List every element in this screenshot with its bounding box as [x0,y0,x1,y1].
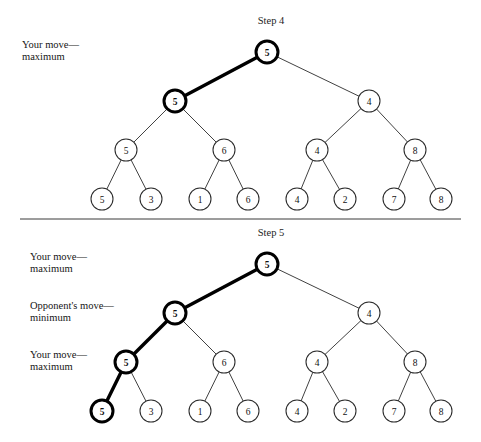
tree-node[interactable]: 5 [256,253,278,275]
tree-node[interactable]: 2 [334,188,356,210]
tree-node[interactable]: 5 [164,90,186,112]
tree-edge [133,108,167,142]
tree-edge-highlighted [133,320,167,354]
role-label-line: Opponent's move— [30,300,114,311]
tree-edge [229,159,244,189]
tree-edge [325,320,362,355]
tree-node-value: 5 [173,97,178,107]
tree-edge [398,372,411,402]
tree-node[interactable]: 4 [306,139,328,161]
tree-node-value: 5 [173,309,178,319]
tree-edge [322,371,340,402]
tree-edge [182,108,216,142]
tree-node-value: 4 [295,407,300,417]
tree-node[interactable]: 5 [164,302,186,324]
tree-node-value: 6 [222,358,227,368]
role-label-your-move-maximum-1: Your move—maximum [30,251,87,274]
tree-edge [182,320,216,354]
tree-node-value: 5 [265,260,270,270]
tree-edge [229,371,244,401]
role-label-your-move-maximum-2: Your move—maximum [30,349,87,372]
tree-node[interactable]: 2 [334,400,356,422]
tree-node-value: 5 [124,146,129,156]
tree-node[interactable]: 8 [430,188,452,210]
role-label-line: maximum [30,263,73,274]
tree-node[interactable]: 4 [286,400,308,422]
tree-node-value: 5 [265,48,270,58]
tree-edge [420,371,436,401]
tree-edge [325,108,362,143]
role-label-line: Your move— [22,39,79,50]
tree-node-value: 4 [295,195,300,205]
tree-node[interactable]: 6 [213,351,235,373]
tree-edge-highlighted [107,371,122,401]
tree-edge [276,57,359,97]
tree-node[interactable]: 8 [404,139,426,161]
tree-edge [205,159,220,189]
role-label-line: maximum [30,361,73,372]
role-label-line: Your move— [30,349,87,360]
tree-node[interactable]: 8 [404,351,426,373]
tree-node-value: 7 [392,195,397,205]
tree-node[interactable]: 1 [189,400,211,422]
tree-node[interactable]: 3 [140,400,162,422]
tree-node[interactable]: 4 [358,90,380,112]
tree-node[interactable]: 4 [306,351,328,373]
role-label-line: maximum [22,51,65,62]
tree-edge [376,321,408,355]
tree-node-value: 3 [149,407,154,417]
tree-node[interactable]: 6 [237,400,259,422]
tree-edge [205,371,220,401]
panel-title-step-4: Step 4 [258,15,285,26]
role-label-your-move-maximum-top: Your move—maximum [22,39,79,62]
tree-edge-highlighted [184,57,257,96]
role-label-opponents-move-minimum: Opponent's move—minimum [30,300,114,323]
tree-node[interactable]: 4 [286,188,308,210]
tree-node-value: 6 [246,195,251,205]
tree-edge [107,159,122,189]
tree-node-value: 3 [149,195,154,205]
tree-node-value: 7 [392,407,397,417]
tree-node[interactable]: 1 [189,188,211,210]
tree-node[interactable]: 5 [91,400,113,422]
tree-node[interactable]: 7 [383,188,405,210]
tree-node[interactable]: 5 [91,188,113,210]
role-label-line: minimum [30,312,71,323]
tree-edge [276,269,359,309]
tree-node-value: 8 [439,407,444,417]
tree-edge [131,371,146,401]
tree-node-value: 2 [343,407,348,417]
tree-edge [301,372,313,402]
tree-edge [301,160,313,190]
tree-node-value: 5 [100,195,105,205]
tree-edge [420,159,436,189]
tree-node-value: 8 [439,195,444,205]
panel-title-step-5: Step 5 [258,227,285,238]
tree-edge [376,109,408,143]
tree-node[interactable]: 4 [358,302,380,324]
tree-node-value: 6 [222,146,227,156]
tree-node[interactable]: 3 [140,188,162,210]
tree-node-value: 1 [198,407,203,417]
tree-node[interactable]: 6 [237,188,259,210]
tree-node[interactable]: 5 [256,41,278,63]
tree-edge [398,160,411,190]
tree-node[interactable]: 5 [115,351,137,373]
tree-node[interactable]: 7 [383,400,405,422]
tree-node-value: 2 [343,195,348,205]
tree-node-value: 6 [246,407,251,417]
tree-node-value: 8 [413,146,418,156]
tree-node-value: 4 [367,309,372,319]
tree-node[interactable]: 5 [115,139,137,161]
tree-node[interactable]: 8 [430,400,452,422]
role-label-line: Your move— [30,251,87,262]
tree-edge [131,159,146,189]
tree-node-value: 8 [413,358,418,368]
tree-edge [322,159,340,190]
tree-node-value: 5 [100,407,105,417]
tree-node-value: 4 [367,97,372,107]
tree-node[interactable]: 6 [213,139,235,161]
tree-node-value: 1 [198,195,203,205]
minimax-game-tree-figure: 554564853164278554564853164278 Step 4You… [0,0,481,442]
tree-node-value: 4 [315,358,320,368]
